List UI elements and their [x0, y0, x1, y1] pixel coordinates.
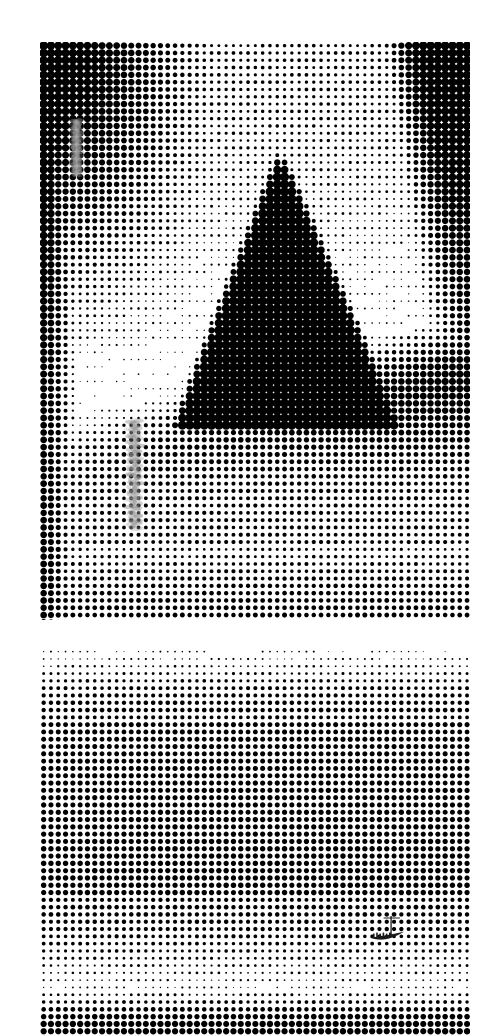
- halftone-canvas-top: [40, 42, 470, 620]
- panel-mountain-fjord-scene: Mountain and fjord halftone plate: [40, 42, 470, 620]
- page-title: Halftone Landscape Print: [0, 21, 1, 22]
- panel-open-sea-scene: Open sea halftone plate with single vess…: [40, 648, 470, 1035]
- halftone-canvas-bottom: [40, 648, 470, 1035]
- halftone-page: Halftone Landscape Print Mountain and fj…: [0, 0, 486, 1035]
